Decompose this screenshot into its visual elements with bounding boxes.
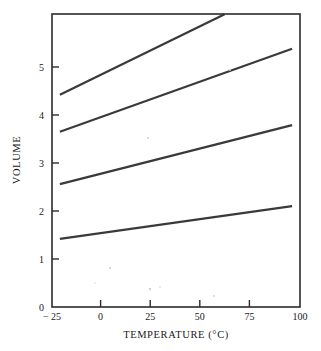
- data-lines: [60, 14, 292, 239]
- chart-figure: − 25 0 25 50 75 100 0 1 2 3 4 5 TEMPERAT…: [0, 0, 321, 351]
- y-tick-label: 5: [39, 62, 44, 73]
- y-tick-label: 1: [39, 254, 44, 265]
- x-tick-label: 50: [195, 311, 205, 322]
- y-axis-ticks: [52, 67, 59, 259]
- x-axis-ticks: [101, 300, 250, 307]
- data-line-4: [60, 206, 292, 239]
- chart-svg: − 25 0 25 50 75 100 0 1 2 3 4 5 TEMPERAT…: [0, 0, 321, 351]
- x-tick-label: 0: [98, 311, 103, 322]
- y-axis-title: VOLUME: [11, 136, 22, 185]
- y-tick-label: 0: [39, 302, 44, 313]
- y-tick-label: 3: [39, 158, 44, 169]
- x-tick-label: 100: [293, 311, 308, 322]
- x-axis-title: TEMPERATURE (°C): [123, 329, 229, 341]
- data-line-2: [60, 49, 292, 132]
- x-tick-label: − 25: [43, 311, 61, 322]
- y-tick-label: 2: [39, 206, 44, 217]
- x-tick-labels: − 25 0 25 50 75 100: [43, 311, 308, 322]
- x-tick-label: 25: [145, 311, 155, 322]
- x-tick-label: 75: [244, 311, 254, 322]
- data-line-3: [60, 125, 292, 184]
- y-tick-label: 4: [39, 110, 44, 121]
- y-tick-labels: 0 1 2 3 4 5: [39, 62, 44, 313]
- scan-artifacts: [94, 69, 231, 297]
- plot-frame: [52, 14, 300, 307]
